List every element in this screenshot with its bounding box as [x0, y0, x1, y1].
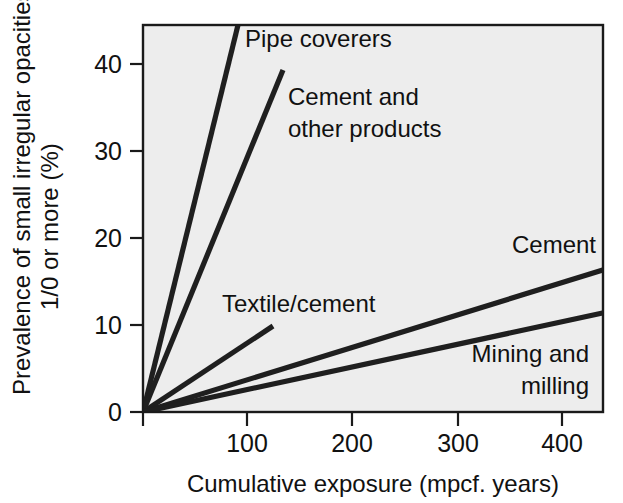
x-tick-label-400: 400	[541, 429, 583, 457]
y-tick-label-30: 30	[94, 137, 122, 165]
y-axis-title-line1: Prevalence of small irregular opacities	[8, 0, 35, 395]
y-tick-label-0: 0	[108, 398, 122, 426]
chart-svg: 40 30 20 10 0 100 200 300 400 Cumulative…	[0, 0, 623, 503]
series-label-cement-and-other-products-line2: other products	[288, 115, 441, 142]
y-tick-label-40: 40	[94, 50, 122, 78]
x-tick-label-200: 200	[331, 429, 373, 457]
y-tick-label-20: 20	[94, 224, 122, 252]
series-label-cement: Cement	[512, 231, 596, 258]
series-label-pipe-coverers: Pipe coverers	[245, 25, 392, 52]
y-axis-ticks	[130, 64, 143, 412]
series-label-mining-and-milling-line1: Mining and	[472, 340, 589, 367]
x-tick-label-300: 300	[437, 429, 479, 457]
series-label-textile-cement: Textile/cement	[222, 290, 376, 317]
chart-figure: 40 30 20 10 0 100 200 300 400 Cumulative…	[0, 0, 623, 503]
x-tick-label-100: 100	[226, 429, 268, 457]
x-axis-title: Cumulative exposure (mpcf. years)	[187, 470, 559, 497]
series-label-cement-and-other-products-line1: Cement and	[288, 83, 419, 110]
y-axis-title-line2: 1/0 or more (%)	[36, 143, 63, 310]
series-label-mining-and-milling-line2: milling	[521, 372, 589, 399]
x-axis-ticks	[143, 412, 562, 426]
y-tick-label-10: 10	[94, 311, 122, 339]
